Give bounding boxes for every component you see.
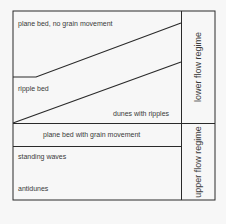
label-antidunes: antidunes — [18, 185, 48, 193]
label-plane-bed-with-movement: plane bed with grain movement — [43, 131, 140, 139]
label-plane-bed-no-movement: plane bed, no grain movement — [18, 20, 113, 28]
label-ripple-bed: ripple bed — [18, 85, 49, 93]
outer-frame — [13, 11, 215, 200]
label-upper-flow-regime: upper flow regime — [193, 126, 203, 198]
label-dunes-with-ripples: dunes with ripples — [113, 110, 169, 118]
label-standing-waves: standing waves — [18, 153, 66, 161]
label-lower-flow-regime: lower flow regime — [193, 32, 203, 102]
plane-ripple-boundary — [13, 23, 181, 77]
